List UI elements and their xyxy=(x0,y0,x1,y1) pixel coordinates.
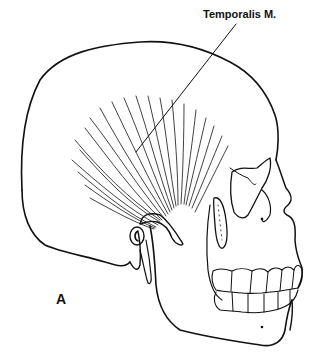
zygomatic-suture xyxy=(218,205,222,240)
mandible-outline xyxy=(150,226,292,346)
zygomatic-bone xyxy=(214,198,227,249)
cranium-outline xyxy=(22,42,279,190)
upper-teeth xyxy=(212,266,302,294)
external-auditory-meatus xyxy=(130,227,144,245)
nasal-aperture xyxy=(262,190,271,222)
upper-teeth-separators xyxy=(231,270,294,293)
styloid-process xyxy=(140,240,151,284)
temporalis-label: Temporalis M. xyxy=(203,8,276,20)
temporalis-fibers xyxy=(72,96,228,229)
coronal-suture xyxy=(230,168,256,185)
skull-illustration xyxy=(0,0,321,364)
orbit-outline xyxy=(231,158,271,218)
skull-diagram: Temporalis M. A xyxy=(0,0,321,364)
infraorbital-foramen xyxy=(261,218,264,221)
panel-letter-label: A xyxy=(56,291,66,307)
label-leader-line xyxy=(136,24,236,152)
mental-foramen xyxy=(261,326,264,329)
